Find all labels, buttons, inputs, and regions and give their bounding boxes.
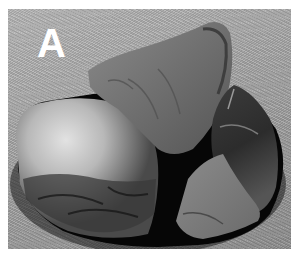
stone-artifact-photo: A [8, 9, 291, 249]
panel-label: A [37, 23, 66, 63]
